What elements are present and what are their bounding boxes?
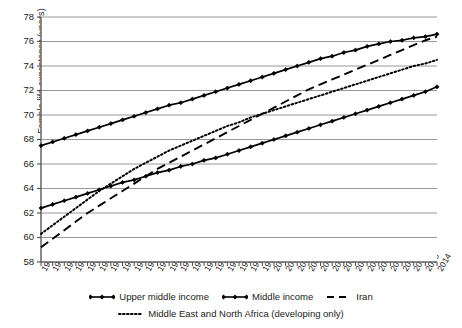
chart-legend: Upper middle incomeMiddle incomeIran Mid… (0, 288, 462, 322)
legend-key-icon (326, 292, 352, 302)
legend-row-primary: Upper middle incomeMiddle incomeIran (0, 288, 462, 305)
legend-line-icon (326, 292, 352, 302)
legend-key-icon (118, 309, 144, 319)
legend-line-icon (118, 309, 144, 319)
legend-label: Middle East and North Africa (developing… (148, 308, 343, 319)
legend-item-1[interactable]: Middle income (222, 291, 313, 302)
legend-item-2[interactable]: Iran (326, 291, 372, 302)
legend-key-icon (222, 292, 248, 302)
plot-area (0, 0, 462, 328)
legend-row-secondary: Middle East and North Africa (developing… (0, 305, 462, 322)
legend-label: Iran (356, 291, 372, 302)
legend-key-icon (89, 292, 115, 302)
legend-line-icon (222, 292, 248, 302)
legend-label: Upper middle income (119, 291, 209, 302)
chart-container: Female life expectancy (years) 586062646… (0, 0, 462, 328)
legend-item-row2-0[interactable]: Middle East and North Africa (developing… (118, 308, 343, 319)
legend-label: Middle income (252, 291, 313, 302)
legend-item-0[interactable]: Upper middle income (89, 291, 209, 302)
legend-line-icon (89, 292, 115, 302)
